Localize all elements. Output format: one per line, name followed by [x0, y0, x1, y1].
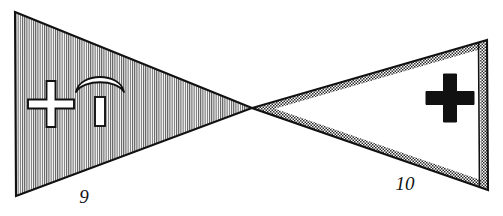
- pennant-diagram: 9 10: [0, 0, 503, 216]
- figure-label-left: 9: [79, 186, 89, 207]
- left-pennant-group: [15, 12, 252, 196]
- right-pennant-group: [244, 40, 489, 190]
- figure-canvas: 9 10: [0, 0, 503, 216]
- pickaxe-handle-icon: [95, 97, 105, 126]
- figure-label-right: 10: [396, 173, 416, 194]
